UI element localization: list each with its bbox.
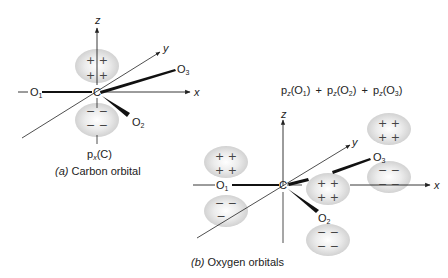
atom-o1-label: O1 — [216, 179, 229, 192]
o3-positive-signs-1: + + — [378, 117, 400, 130]
orbital-diagram: + + + + − − − − z y x C O1 O3 O2 px(C) (… — [0, 0, 448, 278]
o1-positive-signs-1: + + — [215, 150, 237, 163]
diagram-b: pz(O1) + pz(O2) + pz(O3) + + + + − − − +… — [191, 84, 440, 268]
diagram-a: + + + + − − − − z y x C O1 O3 O2 px(C) (… — [18, 14, 200, 177]
carbon-atom-label: C — [279, 179, 287, 191]
o2-positive-signs-2: + + — [317, 191, 339, 204]
o3-negative-signs-2: − − — [378, 178, 400, 191]
x-axis-label: x — [193, 86, 200, 98]
upper-lobe-signs-2: + + — [86, 69, 108, 82]
orbital-expression: pz(O1) + pz(O2) + pz(O3) — [281, 84, 402, 97]
z-axis-label: z — [94, 14, 101, 26]
y-axis-label: y — [351, 136, 359, 148]
lower-lobe-signs-2: − − — [86, 119, 108, 132]
orbital-label-px-c: px(C) — [87, 148, 112, 161]
upper-lobe-signs-1: + + — [86, 54, 108, 67]
caption-b: (b) Oxygen orbitals — [191, 256, 284, 268]
o1-negative-signs-1: − − — [215, 197, 237, 210]
atom-o2-label: O2 — [318, 212, 331, 225]
o1-positive-signs-2: + + — [215, 164, 237, 177]
lower-lobe-signs-1: − − — [86, 105, 108, 118]
x-axis-label: x — [433, 179, 440, 191]
o1-negative-signs-2: − — [216, 210, 225, 223]
atom-o2-label: O2 — [132, 116, 145, 129]
o2-negative-signs-1: − − — [317, 226, 339, 239]
atom-o3-label: O3 — [373, 151, 386, 164]
o3-positive-signs-2: + + — [378, 131, 400, 144]
z-axis-label: z — [280, 108, 287, 120]
y-axis-label: y — [162, 42, 170, 54]
o3-negative-signs-1: − − — [378, 164, 400, 177]
bond-o3-far — [332, 158, 371, 174]
atom-o1-label: O1 — [30, 86, 43, 99]
o2-positive-signs-1: + + — [317, 177, 339, 190]
atom-o3-label: O3 — [177, 63, 190, 76]
caption-a: (a) Carbon orbital — [55, 165, 141, 177]
o2-negative-signs-2: − − — [317, 240, 339, 253]
carbon-atom-label: C — [93, 86, 101, 98]
